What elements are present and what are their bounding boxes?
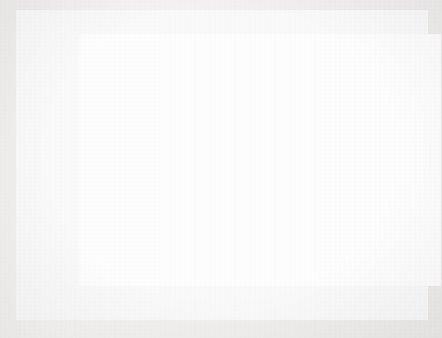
scatter-chart: [16, 10, 428, 320]
scanned-page-background: [0, 0, 442, 338]
figure-panel: [16, 10, 428, 320]
